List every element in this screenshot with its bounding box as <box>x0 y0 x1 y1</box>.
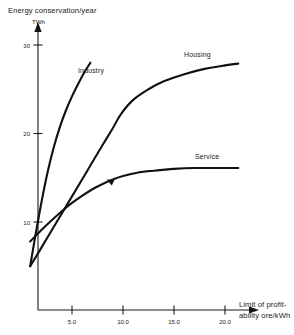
series-label-housing: Housing <box>184 51 211 59</box>
curve-housing <box>30 64 238 267</box>
data-curves-group <box>30 63 238 267</box>
x-tick-label-20: 20.0 <box>219 319 231 325</box>
x-tick-label-10: 10.0 <box>117 319 129 325</box>
x-axis-title-line2: ability ore/kWh <box>239 311 290 320</box>
y-axis-unit-label: TWh <box>32 18 46 25</box>
series-label-service: Service <box>195 153 219 160</box>
energy-conservation-line-chart: 30 20 10 5.0 10.0 15.0 20.0 Energy conse… <box>0 0 294 335</box>
series-labels-group: Industry Housing Service <box>78 51 219 160</box>
chart-container: 30 20 10 5.0 10.0 15.0 20.0 Energy conse… <box>0 0 294 335</box>
tick-labels: 30 20 10 5.0 10.0 15.0 20.0 <box>23 43 231 326</box>
x-tick-label-5: 5.0 <box>68 319 77 325</box>
curve-service <box>30 168 238 242</box>
y-axis-title: Energy conservation/year <box>8 6 97 15</box>
y-tick-label-20: 20 <box>23 131 30 137</box>
y-tick-label-10: 10 <box>23 220 30 226</box>
y-tick-label-30: 30 <box>23 43 30 49</box>
series-label-industry: Industry <box>78 67 104 75</box>
x-axis-title-line1: Limit of profit- <box>239 300 287 309</box>
x-tick-label-15: 15.0 <box>168 319 180 325</box>
curve-industry <box>30 63 90 267</box>
